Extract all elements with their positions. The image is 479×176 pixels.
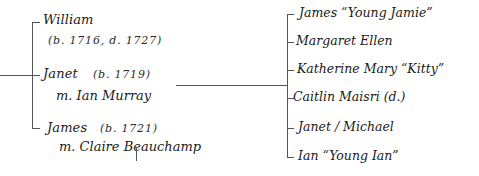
sibling-janet-spouse: m. Ian Murray (56, 88, 151, 103)
sibling-janet-name: Janet (43, 66, 78, 81)
children-bracket-vertical (287, 14, 288, 158)
sibling-james-name: James (47, 120, 87, 135)
child-tick-2 (287, 42, 294, 43)
parent-connector-line (0, 75, 32, 76)
children-connector-line (176, 85, 287, 86)
child-caitlin-maisri: Caitlin Maisri (d.) (293, 89, 405, 104)
sibling-william-name: William (43, 12, 94, 27)
sibling-james-dates: (b. 1721) (100, 122, 158, 135)
sibling-janet-dates: (b. 1719) (93, 68, 151, 81)
child-tick-3 (287, 70, 294, 71)
child-margaret-ellen: Margaret Ellen (296, 33, 393, 48)
sibling-james-spouse: m. Claire Beauchamp (59, 139, 201, 154)
child-tick-1 (287, 14, 294, 15)
sibling-tick-william (32, 22, 40, 23)
child-katherine-mary: Katherine Mary “Kitty” (297, 61, 444, 76)
child-young-jamie: James “Young Jamie” (299, 5, 433, 20)
child-tick-5 (287, 128, 294, 129)
child-janet-michael: Janet / Michael (298, 119, 394, 134)
sibling-william-dates: (b. 1716, d. 1727) (48, 34, 162, 47)
sibling-tick-janet (32, 75, 40, 76)
child-tick-6 (287, 157, 294, 158)
descendant-connector-line (136, 148, 137, 161)
child-young-ian: Ian “Young Ian” (298, 148, 399, 163)
sibling-tick-james (32, 128, 40, 129)
